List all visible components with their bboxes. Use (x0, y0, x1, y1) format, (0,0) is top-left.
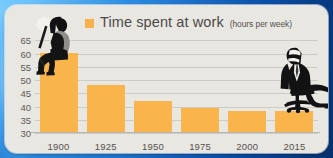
x-label-slot: 1925 (82, 136, 129, 153)
x-label-slot: 2000 (224, 136, 271, 153)
bar-slot (35, 35, 82, 132)
y-axis-tick-label: 35 (20, 114, 31, 125)
bar-slot (271, 35, 318, 132)
x-label-slot: 1950 (129, 136, 176, 153)
y-axis-tick-label: 30 (20, 128, 31, 139)
bar-series (35, 35, 318, 132)
legend-swatch-icon (85, 19, 94, 28)
plot-area: 3035404550556065 (35, 35, 318, 133)
bar-slot (224, 35, 271, 132)
x-axis-tick-label: 1900 (48, 141, 70, 152)
x-label-slot: 1900 (35, 136, 82, 153)
x-label-slot: 2015 (271, 136, 318, 153)
bar-slot (177, 35, 224, 132)
chart-legend: Time spent at work (hours per week) (85, 14, 292, 30)
x-axis-tick-label: 1975 (189, 141, 211, 152)
chart-card: Time spent at work (hours per week) 3035… (5, 5, 328, 153)
x-axis-tick-label: 1950 (142, 141, 164, 152)
y-axis-tick-label: 40 (20, 101, 31, 112)
bar-1925 (87, 85, 125, 132)
y-axis-tick-label: 60 (20, 48, 31, 59)
bar-1950 (134, 101, 172, 132)
y-axis-tick-label: 50 (20, 75, 31, 86)
x-axis-line (31, 132, 320, 133)
x-axis-labels: 190019251950197520002015 (35, 136, 318, 153)
bar-2000 (228, 111, 266, 132)
x-axis-tick-label: 2015 (283, 141, 305, 152)
screenshot-root: Time spent at work (hours per week) 3035… (0, 0, 333, 158)
y-axis-tick-label: 45 (20, 88, 31, 99)
bar-1900 (40, 53, 78, 132)
bar-slot (129, 35, 176, 132)
x-axis-tick-label: 2000 (236, 141, 258, 152)
x-axis-tick-label: 1925 (95, 141, 117, 152)
y-axis-tick-label: 65 (20, 35, 31, 46)
legend-unit: (hours per week) (230, 19, 292, 29)
x-label-slot: 1975 (177, 136, 224, 153)
bar-slot (82, 35, 129, 132)
gridline (35, 133, 318, 134)
y-axis-tick-label: 55 (20, 61, 31, 72)
legend-title: Time spent at work (100, 14, 224, 30)
bar-1975 (181, 108, 219, 132)
bar-2015 (275, 111, 313, 132)
